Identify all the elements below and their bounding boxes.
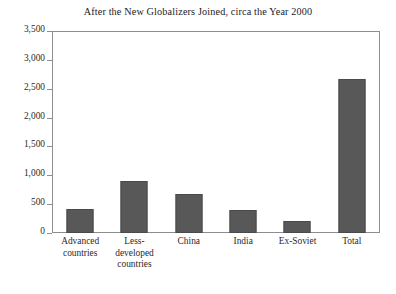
bar-chart-figure: After the New Globalizers Joined, circa … — [0, 0, 396, 294]
x-axis-tick-label-line: Ex-Soviet — [270, 236, 324, 248]
x-axis-tick-label-line: Total — [325, 236, 379, 248]
bar-slot — [270, 32, 324, 233]
x-axis-tick-label-line: Advanced — [53, 236, 107, 248]
y-axis-tick-mark — [47, 146, 52, 147]
bar[interactable] — [284, 221, 311, 233]
y-axis-tick-label: 3,000 — [24, 53, 45, 63]
bar-slot — [162, 32, 216, 233]
y-axis-tick-mark — [47, 204, 52, 205]
x-axis-tick-label: China — [162, 236, 216, 248]
y-axis-tick-label: 2,500 — [24, 82, 45, 92]
y-axis-tick-mark — [47, 60, 52, 61]
y-axis-tick-mark — [47, 31, 52, 32]
bars-group — [53, 32, 379, 233]
x-axis-tick-label: Less-developedcountries — [107, 236, 161, 271]
x-axis: AdvancedcountriesLess-developedcountries… — [53, 236, 379, 292]
y-axis-tick-label: 1,000 — [24, 168, 45, 178]
y-axis-tick-label: 2,000 — [24, 111, 45, 121]
x-axis-tick-label: India — [216, 236, 270, 248]
y-axis-tick-mark — [47, 89, 52, 90]
bar[interactable] — [121, 181, 148, 233]
x-axis-tick-label-line: India — [216, 236, 270, 248]
x-axis-tick-label-line: China — [162, 236, 216, 248]
bar-slot — [53, 32, 107, 233]
y-axis-tick-label: 3,500 — [24, 24, 45, 34]
y-axis-tick-label: 1,500 — [24, 139, 45, 149]
x-axis-tick-label-line: Less- — [107, 236, 161, 248]
bar[interactable] — [338, 79, 365, 233]
chart-title: After the New Globalizers Joined, circa … — [0, 6, 396, 17]
bar[interactable] — [67, 209, 94, 233]
bar-slot — [325, 32, 379, 233]
x-axis-tick-label: Ex-Soviet — [270, 236, 324, 248]
bar[interactable] — [175, 194, 202, 233]
x-axis-tick-label-line: countries — [53, 248, 107, 260]
x-axis-tick-label: Total — [325, 236, 379, 248]
y-axis-tick-label: 500 — [31, 197, 45, 207]
x-axis-tick-label-line: countries — [107, 259, 161, 271]
y-axis-tick-mark — [47, 118, 52, 119]
bar-slot — [107, 32, 161, 233]
bar[interactable] — [230, 210, 257, 233]
x-axis-tick-label-line: developed — [107, 248, 161, 260]
x-axis-tick-label: Advancedcountries — [53, 236, 107, 259]
y-axis-tick-label: 0 — [40, 226, 45, 236]
bar-slot — [216, 32, 270, 233]
y-axis-tick-mark — [47, 233, 52, 234]
y-axis: 05001,0001,5002,0002,5003,0003,500 — [0, 31, 52, 233]
y-axis-tick-mark — [47, 175, 52, 176]
